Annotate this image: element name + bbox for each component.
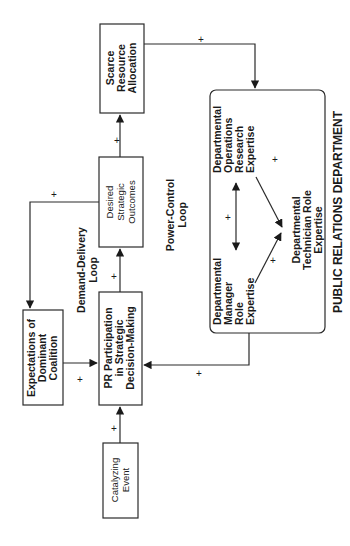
svg-text:Loop: Loop [87, 257, 99, 283]
svg-text:Demand-Delivery: Demand-Delivery [75, 227, 87, 313]
svg-text:Strategic: Strategic [115, 183, 126, 221]
sign-resource-to-department: + [198, 34, 204, 45]
svg-text:Decision-Making: Decision-Making [124, 306, 136, 389]
svg-text:Allocation: Allocation [126, 43, 138, 94]
sign-operations-manager: + [225, 212, 231, 223]
sign-operations-to-technician: + [272, 154, 278, 165]
sign-catalyzing-to-participation: + [111, 423, 117, 434]
sign-participation-to-outcomes: + [111, 271, 117, 282]
sign-outcomes-to-resource: + [114, 135, 120, 146]
desired-strategic-outcomes-label: Desired Strategic Outcomes [104, 180, 137, 224]
causal-loop-diagram: + + + + + + + + + + Scarce Resource Allo… [0, 0, 350, 546]
svg-text:Loop: Loop [176, 202, 188, 228]
svg-text:Event: Event [120, 467, 131, 492]
svg-text:PUBLIC RELATIONS DEPARTMENT: PUBLIC RELATIONS DEPARTMENT [331, 110, 345, 313]
svg-text:Expertise: Expertise [244, 278, 256, 325]
sign-expectations-to-participation: + [77, 374, 83, 385]
svg-text:Outcomes: Outcomes [126, 180, 137, 224]
demand-delivery-loop-label: Demand-Delivery Loop [75, 227, 99, 313]
sign-department-to-participation: + [196, 368, 202, 379]
svg-text:Catalyzing: Catalyzing [109, 458, 120, 502]
svg-text:Desired: Desired [104, 186, 115, 219]
svg-text:Expertise: Expertise [312, 206, 324, 253]
arrow-resource-to-department [144, 44, 255, 88]
public-relations-department-label: PUBLIC RELATIONS DEPARTMENT [331, 110, 345, 313]
sign-outcomes-to-expectations: + [51, 189, 57, 200]
power-control-loop-label: Power-Control Loop [164, 179, 188, 251]
svg-text:Power-Control: Power-Control [164, 179, 176, 251]
svg-text:Expertise: Expertise [244, 126, 256, 173]
sign-manager-to-technician: + [270, 255, 276, 266]
svg-text:Coalition: Coalition [47, 336, 59, 381]
arrow-outcomes-to-expectations [30, 202, 99, 308]
arrow-department-to-participation [144, 333, 249, 365]
